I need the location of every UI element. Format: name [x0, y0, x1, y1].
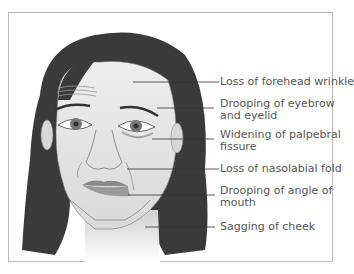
label-palpebral: Widening of palpebral fissure	[220, 129, 341, 153]
right-ear	[171, 123, 183, 153]
label-text-line2: fissure	[220, 141, 341, 153]
label-forehead: Loss of forehead wrinkle	[220, 76, 354, 88]
label-eyebrow: Drooping of eyebrow and eyelid	[220, 98, 335, 122]
label-text: Loss of forehead wrinkle	[220, 76, 354, 88]
label-text-line2: mouth	[220, 197, 332, 209]
label-mouth: Drooping of angle of mouth	[220, 185, 332, 209]
label-text: Sagging of cheek	[220, 221, 315, 233]
left-ear	[41, 120, 53, 150]
label-nasolabial: Loss of nasolabial fold	[220, 163, 342, 175]
label-text: Loss of nasolabial fold	[220, 163, 342, 175]
label-text-line2: and eyelid	[220, 110, 335, 122]
label-cheek: Sagging of cheek	[220, 221, 315, 233]
